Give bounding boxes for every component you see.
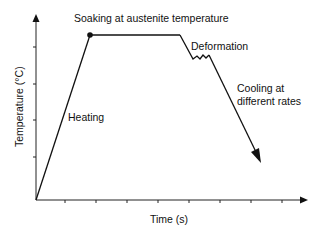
x-axis-label: Time (s) xyxy=(150,213,188,225)
x-axis-arrow-icon xyxy=(300,197,308,204)
x-axis xyxy=(36,197,308,204)
deformation-label: Deformation xyxy=(191,40,248,52)
y-axis xyxy=(33,14,40,200)
soaking-label: Soaking at austenite temperature xyxy=(74,12,229,24)
y-axis-arrow-icon xyxy=(33,14,40,22)
heating-label: Heating xyxy=(68,111,104,123)
cooling-label-line1: Cooling at xyxy=(237,82,284,94)
process-diagram: Soaking at austenite temperature Heating… xyxy=(0,0,318,237)
y-axis-label: Temperature (°C) xyxy=(13,66,25,147)
cooling-label-line2: different rates xyxy=(237,95,301,107)
cooling-arrow-icon xyxy=(251,148,261,163)
